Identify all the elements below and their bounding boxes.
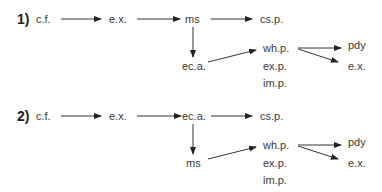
node-imp: im.p. bbox=[263, 77, 287, 89]
node-eca: ec.a. bbox=[182, 110, 206, 122]
node-pdy: pdy bbox=[348, 39, 366, 51]
node-csp: cs.p. bbox=[260, 110, 283, 122]
node-cf: c.f. bbox=[36, 110, 51, 122]
node-exp: ex.p. bbox=[263, 60, 287, 72]
node-imp: im.p. bbox=[263, 174, 287, 186]
arrow-eca-to-whp bbox=[208, 50, 256, 62]
node-eca: ec.a. bbox=[182, 60, 206, 72]
node-whp: wh.p. bbox=[263, 42, 289, 54]
node-ms: ms bbox=[185, 13, 200, 25]
node-ex-out: e.x. bbox=[348, 60, 366, 72]
diagram-2-arrows bbox=[61, 116, 341, 159]
arrow-ms-to-whp bbox=[208, 147, 256, 159]
arrow-whp-to-ex bbox=[298, 49, 338, 62]
node-pdy: pdy bbox=[348, 136, 366, 148]
node-whp: wh.p. bbox=[263, 139, 289, 151]
node-ms: ms bbox=[186, 157, 201, 169]
node-csp: cs.p. bbox=[260, 13, 283, 25]
node-ex: e.x. bbox=[109, 110, 127, 122]
node-cf: c.f. bbox=[36, 13, 51, 25]
arrow-whp-to-ex bbox=[298, 146, 338, 159]
diagram-number: 2) bbox=[17, 109, 29, 123]
diagram-1-arrows bbox=[61, 19, 341, 62]
node-exp: ex.p. bbox=[263, 157, 287, 169]
node-ex: e.x. bbox=[109, 13, 127, 25]
diagram-number: 1) bbox=[17, 12, 29, 26]
node-ex-out: e.x. bbox=[348, 157, 366, 169]
